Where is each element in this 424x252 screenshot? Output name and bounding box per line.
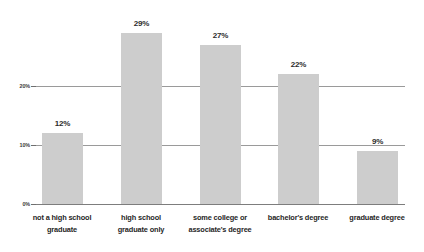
y-axis-tick-10: 10% xyxy=(4,143,30,148)
x-axis-label-line2: associate's degree xyxy=(174,224,266,236)
bar-value-graduate-degree: 9% xyxy=(357,138,398,146)
x-axis-label-line1: high school xyxy=(121,213,161,222)
bar-graduate-degree[interactable] xyxy=(357,151,398,204)
tick-dash-10 xyxy=(31,145,36,146)
x-axis-label-graduate-degree: graduate degree xyxy=(331,212,423,224)
bar-bachelors-degree[interactable] xyxy=(278,74,319,204)
bar-some-college-or-associates-degree[interactable] xyxy=(200,45,241,204)
bar-high-school-graduate-only[interactable] xyxy=(121,33,162,204)
tick-dash-20 xyxy=(31,86,36,87)
x-axis-label-line1: bachelor's degree xyxy=(268,213,328,222)
plot-area: 20% 10% 0% 12% not a high school graduat… xyxy=(0,0,424,252)
bar-value-not-a-high-school-graduate: 12% xyxy=(42,120,83,128)
bar-chart: 20% 10% 0% 12% not a high school graduat… xyxy=(0,0,424,252)
bar-value-some-college-or-associates-degree: 27% xyxy=(200,32,241,40)
gridline-baseline xyxy=(36,204,405,205)
y-axis-tick-20: 20% xyxy=(4,84,30,89)
bar-value-bachelors-degree: 22% xyxy=(278,61,319,69)
y-axis-tick-0: 0% xyxy=(4,202,30,207)
bar-value-high-school-graduate-only: 29% xyxy=(121,20,162,28)
x-axis-label-line1: not a high school xyxy=(33,213,92,222)
bar-not-a-high-school-graduate[interactable] xyxy=(42,133,83,204)
x-axis-label-line1: graduate degree xyxy=(349,213,404,222)
x-axis-label-line1: some college or xyxy=(193,213,247,222)
tick-dash-0 xyxy=(31,204,36,205)
